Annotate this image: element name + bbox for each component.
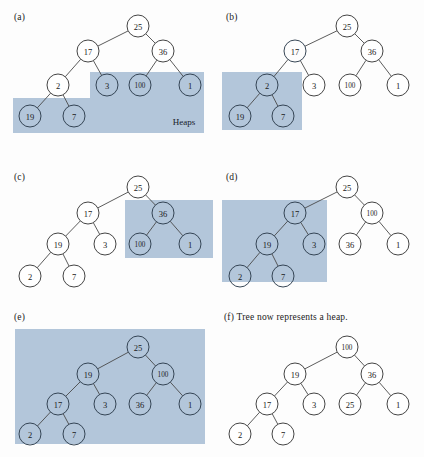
node-value: 36 <box>368 47 377 57</box>
tree-node: 36 <box>339 233 361 255</box>
node-value: 7 <box>72 112 76 122</box>
tree-edge <box>305 31 337 46</box>
tree-node: 1 <box>387 393 409 415</box>
node-value: 1 <box>396 400 400 410</box>
tree-node: 2 <box>47 74 69 96</box>
panel-caption-a: (a) <box>14 12 25 22</box>
node-value: 2 <box>238 430 242 440</box>
node-value: 17 <box>263 400 272 410</box>
tree-node: 17 <box>77 202 99 224</box>
node-value: 7 <box>281 272 285 282</box>
tree-edge <box>98 192 128 208</box>
node-value: 19 <box>291 370 300 380</box>
node-value: 1 <box>188 81 192 91</box>
node-value: 100 <box>367 210 378 218</box>
tree-node: 100 <box>336 336 358 358</box>
node-value: 7 <box>72 272 76 282</box>
tree-node: 36 <box>361 40 383 62</box>
node-value: 17 <box>84 209 93 219</box>
tree-edge <box>146 34 155 43</box>
tree-edge <box>275 382 288 396</box>
node-value: 100 <box>342 344 353 352</box>
panel-caption-d: (d) <box>226 172 238 182</box>
node-value: 25 <box>134 22 143 32</box>
tree-edge <box>98 31 128 46</box>
node-value: 25 <box>134 183 143 193</box>
node-value: 2 <box>28 430 32 440</box>
tree-node: 19 <box>284 363 306 385</box>
tree-node: 2 <box>19 265 41 287</box>
node-value: 19 <box>84 370 93 380</box>
node-value: 2 <box>265 81 269 91</box>
tree-node: 25 <box>336 15 358 37</box>
node-value: 2 <box>56 81 60 91</box>
tree-edge <box>305 352 337 369</box>
node-value: 3 <box>103 240 107 250</box>
tree-node: 1 <box>387 74 409 96</box>
node-value: 36 <box>159 209 168 219</box>
node-value: 25 <box>134 343 143 353</box>
tree-node: 17 <box>256 393 278 415</box>
tree-node: 25 <box>336 176 358 198</box>
tree-node: 7 <box>272 423 294 445</box>
tree-node: 17 <box>284 40 306 62</box>
node-value: 7 <box>281 430 285 440</box>
tree-edge <box>379 221 391 235</box>
node-value: 19 <box>54 240 63 250</box>
node-value: 1 <box>188 400 192 410</box>
tree-nodes-panel-f: 100193617325127 <box>229 336 409 445</box>
node-value: 19 <box>236 112 245 122</box>
node-value: 25 <box>343 183 352 193</box>
tree-node: 3 <box>94 233 116 255</box>
tree-node: 7 <box>63 265 85 287</box>
tree-node: 25 <box>127 15 149 37</box>
tree-node: 100 <box>339 74 361 96</box>
panel-caption-f: (f) Tree now represents a heap. <box>224 312 348 322</box>
node-value: 1 <box>188 240 192 250</box>
node-value: 100 <box>135 82 146 90</box>
heap-construction-figure: 2517362310011972517362310011972517361931… <box>0 0 424 457</box>
tree-edge <box>66 221 81 236</box>
node-value: 3 <box>312 400 316 410</box>
tree-node: 100 <box>361 202 383 224</box>
node-value: 1 <box>396 81 400 91</box>
tree-edge <box>247 412 259 426</box>
tree-node: 25 <box>127 176 149 198</box>
tree-node: 19 <box>47 233 69 255</box>
node-value: 7 <box>72 430 76 440</box>
node-value: 36 <box>159 47 168 57</box>
shaded-region-panel-b <box>222 72 302 130</box>
tree-edge <box>354 355 364 366</box>
node-value: 2 <box>238 272 242 282</box>
panel-caption-b: (b) <box>226 12 238 22</box>
node-value: 3 <box>103 400 107 410</box>
tree-edge <box>357 383 366 395</box>
panel-caption-c: (c) <box>14 172 25 182</box>
node-value: 3 <box>105 81 109 91</box>
node-value: 17 <box>291 209 300 219</box>
node-value: 100 <box>345 82 356 90</box>
tree-edge <box>37 252 51 267</box>
tree-node: 36 <box>152 40 174 62</box>
node-value: 36 <box>136 400 145 410</box>
tree-edge <box>63 254 69 266</box>
node-value: 100 <box>135 241 146 249</box>
tree-edge <box>379 382 391 395</box>
tree-node: 17 <box>77 40 99 62</box>
tree-node: 3 <box>303 74 325 96</box>
tree-edge <box>355 34 364 43</box>
tree-edge <box>93 223 99 235</box>
node-value: 36 <box>346 240 355 250</box>
tree-node: 3 <box>303 393 325 415</box>
node-value: 3 <box>312 81 316 91</box>
node-value: 36 <box>368 370 377 380</box>
node-value: 25 <box>346 400 355 410</box>
panel-caption-e: (e) <box>14 312 25 322</box>
tree-edge <box>379 60 392 77</box>
tree-edge <box>355 195 365 205</box>
node-value: 100 <box>158 371 169 379</box>
node-value: 1 <box>396 240 400 250</box>
shaded-region-panel-e <box>15 329 205 444</box>
node-value: 3 <box>312 240 316 250</box>
tree-node: 36 <box>361 363 383 385</box>
